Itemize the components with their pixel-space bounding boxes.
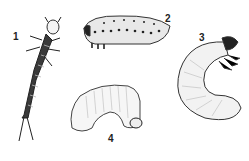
larva-4-drawing [71, 85, 142, 131]
specimen-label-2: 2 [165, 14, 171, 24]
larva-2-drawing [84, 16, 170, 49]
larva-3-drawing [178, 37, 241, 120]
larvae-illustration [0, 0, 249, 161]
larva-1-drawing [19, 17, 61, 141]
specimen-label-3: 3 [199, 33, 205, 43]
specimen-label-4: 4 [108, 134, 114, 144]
specimen-label-1: 1 [13, 32, 19, 42]
